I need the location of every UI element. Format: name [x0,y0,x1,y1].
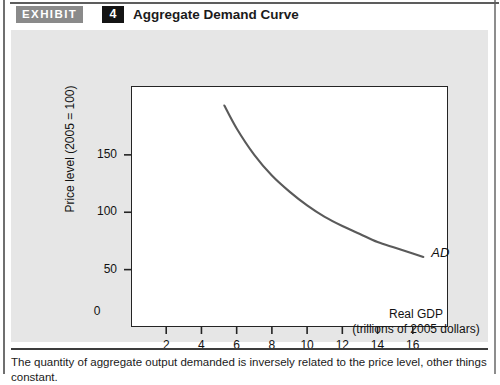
x-tick-marks [166,327,413,334]
page-title: Aggregate Demand Curve [133,5,299,24]
y-tick-label: 50 [73,262,117,276]
y-tick-label: 150 [73,147,117,161]
x-tick-label: 6 [225,338,249,352]
x-tick-label: 10 [295,338,319,352]
x-tick-label: 8 [260,338,284,352]
exhibit-number-badge: 4 [102,6,124,23]
x-tick-label: 12 [330,338,354,352]
x-tick-label: 14 [366,338,390,352]
x-tick-label: 16 [401,338,425,352]
y-tick-marks [124,155,131,270]
aggregate-demand-curve [224,106,423,257]
header-divider [10,2,499,4]
chart-svg [11,30,488,342]
figure-caption: The quantity of aggregate output demande… [11,355,488,385]
page-border-right [494,0,496,374]
y-tick-label: 100 [73,204,117,218]
exhibit-label: EXHIBIT [16,6,83,23]
page-border-left [3,0,5,374]
x-tick-label: 4 [189,338,213,352]
x-tick-label: 2 [154,338,178,352]
figure-panel: Price level (2005 = 100) Real GDP (trill… [11,30,488,342]
caption-divider [11,348,488,350]
exhibit-header: EXHIBIT 4 Aggregate Demand Curve [5,0,494,30]
